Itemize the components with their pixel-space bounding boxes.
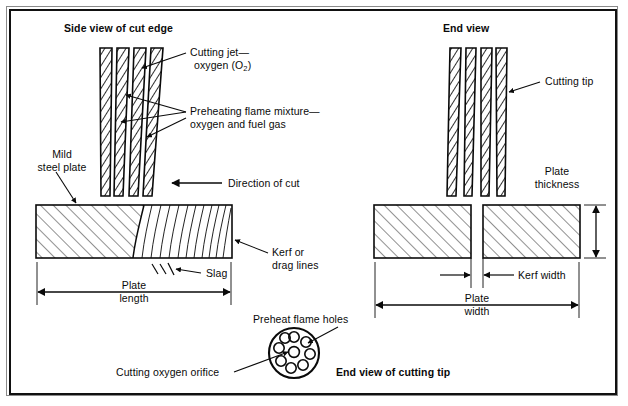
kerf-width-label: Kerf width (518, 269, 566, 282)
cutting-tip-leader (509, 82, 540, 92)
cutting-oxygen-orifice-label: Cutting oxygen orifice (116, 366, 219, 379)
plate-thickness-dimension (584, 205, 606, 258)
end-plate-left-hatch (370, 200, 476, 264)
cutting-jet-label-line1: Cutting jet— (190, 46, 249, 59)
diagram-canvas (0, 0, 628, 406)
plate-length-label-line2: length (100, 292, 168, 305)
side-view-jet-group (100, 48, 163, 196)
preheat-flame-holes-label: Preheat flame holes (253, 313, 348, 326)
preheating-flame-label-line2: oxygen and fuel gas (190, 118, 286, 131)
cutting-oxygen-orifice-leader (234, 352, 288, 372)
plate-thickness-label-line1: Plate (519, 165, 595, 178)
kerf-drag-lines-label-line1: Kerf or (272, 246, 304, 259)
drag-lines (142, 205, 231, 258)
side-view-plate (30, 200, 232, 264)
cutting-jet-paren-close: ) (248, 59, 252, 71)
direction-of-cut-label: Direction of cut (228, 177, 300, 190)
end-plate-right-hatch (479, 200, 585, 264)
mild-steel-plate-label-line2: steel plate (20, 161, 104, 174)
plate-thickness-label-line2: thickness (514, 178, 600, 191)
preheat-holes (274, 332, 315, 373)
cutting-tip-label: Cutting tip (545, 75, 593, 88)
plate-length-label-line1: Plate (100, 279, 168, 292)
figure-root: Side view of cut edge End view Cutting j… (0, 0, 628, 406)
cutting-tip-end-view (269, 328, 319, 378)
cutting-oxygen-hole (289, 347, 300, 358)
tip-end-view-title: End view of cutting tip (336, 366, 450, 379)
cutting-jet-leader (142, 53, 186, 68)
end-view-jet-4 (496, 48, 507, 196)
plate-width-label-line1: Plate (443, 292, 511, 305)
cutting-jet-oxygen-text: oxygen (O (194, 59, 243, 71)
kerf-width-dimension (440, 258, 514, 288)
preheating-flame-label-line1: Preheating flame mixture— (190, 105, 320, 118)
slag-leader (176, 269, 201, 273)
slag-label: Slag (206, 267, 227, 280)
side-view-jet-4 (143, 48, 163, 196)
mild-steel-plate-leader (56, 172, 76, 203)
plate-width-label-line2: width (443, 305, 511, 318)
kerf-drag-lines-leader (235, 240, 268, 253)
side-plate-hatch (30, 200, 155, 264)
end-view-plates (370, 200, 585, 264)
end-view-jet-1 (447, 48, 461, 196)
slag-marks (152, 263, 174, 275)
kerf-drag-lines-label-line2: drag lines (272, 259, 319, 272)
oxygen-subscript: 2 (243, 64, 247, 73)
side-view-title: Side view of cut edge (64, 22, 173, 35)
cutting-jet-label-line2: oxygen (O2) (194, 59, 251, 73)
end-view-title: End view (443, 22, 489, 35)
end-view-jet-2 (464, 48, 476, 196)
end-view-jet-3 (481, 48, 492, 196)
mild-steel-plate-label-line1: Mild (26, 148, 98, 161)
end-view-jet-group (447, 48, 507, 196)
